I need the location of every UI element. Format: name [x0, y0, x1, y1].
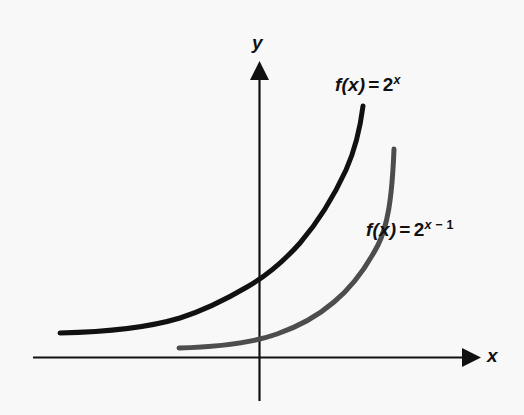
curve-f-2x-minus-1	[179, 149, 394, 348]
curve1-exponent: x	[393, 73, 400, 87]
curve-f-2x	[60, 106, 363, 333]
x-axis-label: x	[487, 346, 498, 365]
curve1-fn-text: f(x)	[335, 74, 365, 95]
curve-label-f-2x: f(x)=2x	[335, 74, 401, 96]
curve2-exponent-var: x	[424, 218, 431, 232]
curve-label-f-2x-minus-1: f(x)=2x − 1	[366, 219, 454, 241]
graph-canvas	[0, 0, 524, 415]
curve2-equals-sign: =	[396, 219, 413, 240]
y-axis-label: y	[252, 33, 263, 52]
curve1-exponent-var: x	[393, 73, 400, 87]
curve2-base: 2	[414, 219, 425, 240]
curve2-exponent: x − 1	[424, 218, 453, 232]
x-axis-arrowhead	[462, 348, 481, 367]
curve1-equals-sign: =	[365, 74, 382, 95]
exponential-graph-figure: y x f(x)=2x f(x)=2x − 1	[0, 0, 524, 415]
curve2-fn-text: f(x)	[366, 219, 396, 240]
curve1-base: 2	[383, 74, 394, 95]
curve2-exponent-rest: − 1	[432, 218, 454, 232]
y-axis-arrowhead	[250, 61, 269, 80]
